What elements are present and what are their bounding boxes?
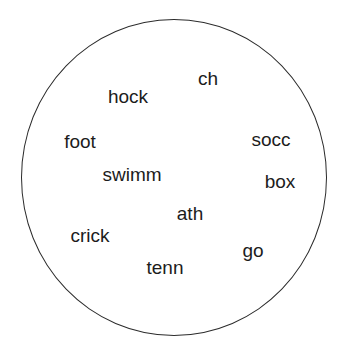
word-label-tenn: tenn	[147, 258, 184, 277]
word-label-crick: crick	[70, 226, 109, 245]
word-cloud-diagram: chhockfootsoccswimmboxathcrickgotenn	[0, 0, 347, 356]
word-label-swimm: swimm	[102, 165, 161, 184]
word-label-foot: foot	[64, 132, 96, 151]
word-label-socc: socc	[251, 130, 290, 149]
word-label-go: go	[242, 241, 263, 260]
word-label-ath: ath	[177, 204, 203, 223]
word-label-ch: ch	[198, 69, 218, 88]
word-label-box: box	[265, 172, 296, 191]
word-label-hock: hock	[108, 87, 148, 106]
